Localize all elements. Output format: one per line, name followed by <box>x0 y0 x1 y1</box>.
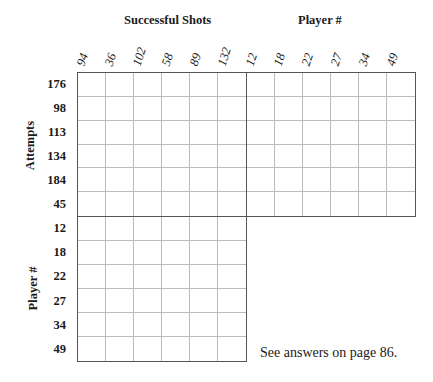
grid-cell[interactable] <box>190 121 218 145</box>
grid-cell[interactable] <box>218 168 246 192</box>
grid-cell[interactable] <box>387 168 415 192</box>
grid-cell[interactable] <box>247 168 275 192</box>
grid-cell[interactable] <box>190 97 218 121</box>
grid-cell[interactable] <box>275 145 303 169</box>
grid-cell[interactable] <box>106 192 134 216</box>
grid-cell[interactable] <box>359 73 387 97</box>
grid-cell[interactable] <box>106 145 134 169</box>
grid-cell[interactable] <box>106 168 134 192</box>
grid-cell[interactable] <box>275 121 303 145</box>
grid-cell[interactable] <box>359 192 387 216</box>
grid-cell[interactable] <box>162 192 190 216</box>
grid-cell[interactable] <box>275 73 303 97</box>
grid-cell[interactable] <box>106 121 134 145</box>
grid-cell[interactable] <box>162 97 190 121</box>
grid-cell[interactable] <box>218 217 246 241</box>
grid-cell[interactable] <box>303 192 331 216</box>
grid-cell[interactable] <box>190 168 218 192</box>
grid-cell[interactable] <box>331 168 359 192</box>
grid-cell[interactable] <box>162 145 190 169</box>
grid-cell[interactable] <box>106 217 134 241</box>
grid-cell[interactable] <box>106 97 134 121</box>
grid-cell[interactable] <box>78 168 106 192</box>
grid-cell[interactable] <box>359 145 387 169</box>
grid-cell[interactable] <box>78 313 106 337</box>
grid-cell[interactable] <box>78 192 106 216</box>
grid-cell[interactable] <box>162 265 190 289</box>
grid-cell[interactable] <box>247 97 275 121</box>
grid-cell[interactable] <box>78 289 106 313</box>
grid-cell[interactable] <box>134 168 162 192</box>
grid-cell[interactable] <box>162 337 190 361</box>
grid-cell[interactable] <box>303 121 331 145</box>
grid-cell[interactable] <box>331 192 359 216</box>
grid-cell[interactable] <box>303 73 331 97</box>
grid-cell[interactable] <box>387 121 415 145</box>
grid-cell[interactable] <box>162 289 190 313</box>
grid-cell[interactable] <box>218 73 246 97</box>
grid-cell[interactable] <box>134 289 162 313</box>
grid-cell[interactable] <box>387 192 415 216</box>
grid-cell[interactable] <box>78 121 106 145</box>
grid-cell[interactable] <box>218 121 246 145</box>
grid-cell[interactable] <box>247 73 275 97</box>
grid-cell[interactable] <box>106 265 134 289</box>
grid-cell[interactable] <box>106 313 134 337</box>
grid-cell[interactable] <box>162 168 190 192</box>
grid-cell[interactable] <box>387 97 415 121</box>
grid-cell[interactable] <box>218 97 246 121</box>
grid-cell[interactable] <box>162 121 190 145</box>
grid-cell[interactable] <box>78 73 106 97</box>
grid-cell[interactable] <box>106 241 134 265</box>
grid-cell[interactable] <box>218 289 246 313</box>
grid-cell[interactable] <box>190 73 218 97</box>
grid-cell[interactable] <box>190 337 218 361</box>
grid-cell[interactable] <box>134 241 162 265</box>
grid-cell[interactable] <box>106 289 134 313</box>
grid-cell[interactable] <box>359 121 387 145</box>
grid-cell[interactable] <box>331 121 359 145</box>
grid-cell[interactable] <box>162 241 190 265</box>
grid-cell[interactable] <box>134 192 162 216</box>
grid-cell[interactable] <box>275 97 303 121</box>
grid-cell[interactable] <box>134 97 162 121</box>
grid-cell[interactable] <box>275 192 303 216</box>
grid-cell[interactable] <box>134 145 162 169</box>
grid-cell[interactable] <box>134 121 162 145</box>
grid-cell[interactable] <box>106 337 134 361</box>
grid-cell[interactable] <box>190 265 218 289</box>
grid-cell[interactable] <box>190 217 218 241</box>
grid-cell[interactable] <box>162 217 190 241</box>
grid-cell[interactable] <box>218 337 246 361</box>
grid-cell[interactable] <box>387 145 415 169</box>
grid-cell[interactable] <box>106 73 134 97</box>
grid-cell[interactable] <box>190 192 218 216</box>
grid-cell[interactable] <box>134 337 162 361</box>
grid-cell[interactable] <box>303 97 331 121</box>
grid-cell[interactable] <box>359 97 387 121</box>
grid-cell[interactable] <box>387 73 415 97</box>
grid-cell[interactable] <box>190 289 218 313</box>
grid-cell[interactable] <box>78 337 106 361</box>
grid-cell[interactable] <box>303 168 331 192</box>
grid-cell[interactable] <box>78 241 106 265</box>
grid-cell[interactable] <box>78 97 106 121</box>
grid-cell[interactable] <box>78 265 106 289</box>
grid-cell[interactable] <box>134 73 162 97</box>
grid-cell[interactable] <box>162 73 190 97</box>
grid-cell[interactable] <box>162 313 190 337</box>
grid-cell[interactable] <box>247 192 275 216</box>
grid-cell[interactable] <box>134 313 162 337</box>
grid-cell[interactable] <box>78 217 106 241</box>
grid-cell[interactable] <box>218 241 246 265</box>
grid-cell[interactable] <box>218 265 246 289</box>
grid-cell[interactable] <box>275 168 303 192</box>
grid-cell[interactable] <box>331 97 359 121</box>
grid-cell[interactable] <box>331 73 359 97</box>
grid-cell[interactable] <box>134 217 162 241</box>
grid-cell[interactable] <box>134 265 162 289</box>
grid-cell[interactable] <box>247 121 275 145</box>
grid-cell[interactable] <box>303 145 331 169</box>
grid-cell[interactable] <box>359 168 387 192</box>
grid-cell[interactable] <box>331 145 359 169</box>
